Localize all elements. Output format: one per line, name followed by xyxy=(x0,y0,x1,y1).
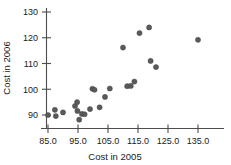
data-point xyxy=(87,106,92,111)
y-tick-label: 100 xyxy=(23,85,38,95)
plot-area: 90100110120130 85.095.0105.0115.0125.013… xyxy=(0,0,231,165)
data-point xyxy=(60,110,65,115)
x-tick-label: 115.0 xyxy=(127,136,149,146)
data-point xyxy=(77,117,82,122)
data-point xyxy=(148,58,153,63)
y-axis-title: Cost in 2006 xyxy=(1,41,12,94)
data-point xyxy=(132,79,137,84)
data-point xyxy=(82,112,87,117)
data-point xyxy=(120,45,125,50)
x-tick-label: 85.0 xyxy=(39,136,57,146)
data-point xyxy=(153,65,158,70)
x-tick-label: 105.0 xyxy=(97,136,120,146)
data-point xyxy=(75,108,80,113)
x-tick-label: 125.0 xyxy=(157,136,180,146)
data-point xyxy=(147,25,152,30)
y-tick-label: 90 xyxy=(28,110,38,120)
y-tick-label: 120 xyxy=(23,33,38,43)
x-tick-group: 85.095.0105.0115.0125.0135.0 xyxy=(39,125,209,147)
data-points-layer xyxy=(45,25,200,122)
data-point xyxy=(107,86,112,91)
y-tick-label: 110 xyxy=(24,59,38,69)
x-axis-title: Cost in 2005 xyxy=(88,151,141,162)
data-point xyxy=(75,100,80,105)
x-tick-label: 95.0 xyxy=(69,136,87,146)
x-tick-label: 135.0 xyxy=(187,136,210,146)
data-point xyxy=(102,94,107,99)
data-point xyxy=(195,37,200,42)
scatter-chart: 90100110120130 85.095.0105.0115.0125.013… xyxy=(0,0,231,165)
y-tick-label: 130 xyxy=(23,7,38,17)
data-point xyxy=(53,113,58,118)
data-point xyxy=(128,83,133,88)
data-point xyxy=(45,112,50,117)
data-point xyxy=(97,105,102,110)
data-point xyxy=(52,107,57,112)
data-point xyxy=(92,87,97,92)
data-point xyxy=(137,31,142,36)
